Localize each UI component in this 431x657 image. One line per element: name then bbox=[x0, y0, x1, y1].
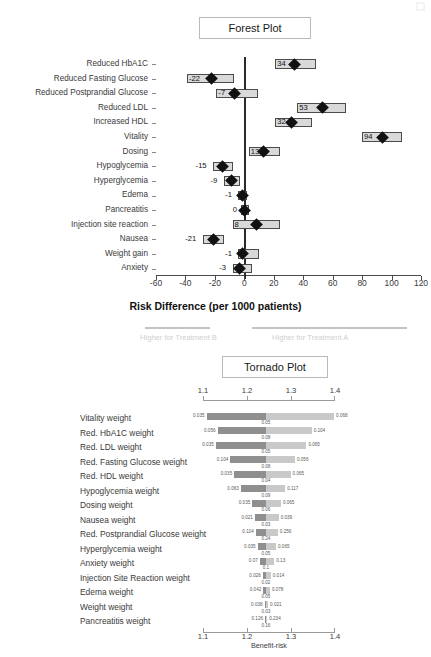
tornado-row: 0.0350.0680.05 bbox=[203, 411, 335, 426]
tornado-high-bar bbox=[266, 616, 268, 623]
forest-y-tick bbox=[152, 210, 156, 211]
tornado-row: 0.070.130.1 bbox=[203, 556, 335, 571]
forest-value-label: 13 bbox=[251, 147, 259, 157]
tornado-axis-tick-label: 1.2 bbox=[236, 632, 258, 641]
tornado-row-label: Red. LDL weight bbox=[0, 440, 200, 455]
tornado-high-value-label: 0.104 bbox=[314, 428, 330, 434]
forest-value-label: 0 bbox=[233, 205, 237, 215]
tornado-low-bar bbox=[256, 529, 266, 536]
forest-x-tick-label: 20 bbox=[262, 278, 286, 288]
tornado-axis-tick-label: 1.1 bbox=[192, 632, 214, 641]
forest-y-tick bbox=[152, 93, 156, 94]
forest-x-tick-label: -60 bbox=[144, 278, 168, 288]
forest-y-tick bbox=[152, 79, 156, 80]
forest-x-axis-title: Risk Difference (per 1000 patients) bbox=[0, 300, 431, 312]
tornado-low-value-label: 0.035 bbox=[241, 544, 256, 550]
corner-artifact-icon bbox=[416, 2, 425, 11]
tornado-high-value-label: 0.234 bbox=[269, 616, 285, 622]
tornado-high-value-label: 0.056 bbox=[297, 457, 313, 463]
tornado-high-value-label: 0.039 bbox=[281, 515, 297, 521]
forest-row: -22 bbox=[156, 72, 421, 87]
tornado-axis-line bbox=[203, 400, 335, 401]
tornado-row-label: Hyperglycemia weight bbox=[0, 542, 200, 557]
tornado-high-bar bbox=[266, 442, 306, 449]
forest-row-label: Increased HDL bbox=[0, 115, 152, 130]
chart-page: Forest Plot Reduced HbA1CReduced Fasting… bbox=[0, 0, 431, 657]
forest-row-label: Nausea bbox=[0, 232, 152, 247]
forest-value-label: -21 bbox=[185, 234, 196, 244]
forest-row-label: Dosing bbox=[0, 145, 152, 160]
forest-row: -21 bbox=[156, 232, 421, 247]
forest-value-label: 8 bbox=[235, 220, 239, 230]
forest-x-tick-labels: -60-40-20020406080100120 bbox=[156, 278, 421, 292]
forest-point-estimate-marker bbox=[238, 204, 251, 217]
forest-x-tick-label: -40 bbox=[173, 278, 197, 288]
tornado-axis-tick-label: 1.3 bbox=[280, 386, 302, 395]
tornado-row-label: Weight weight bbox=[0, 600, 200, 615]
forest-x-tick-label: 100 bbox=[380, 278, 404, 288]
forest-value-label: 94 bbox=[364, 132, 372, 142]
tornado-high-value-label: 0.13 bbox=[276, 558, 292, 564]
forest-row: 8 bbox=[156, 218, 421, 233]
tornado-row-label: Nausea weight bbox=[0, 513, 200, 528]
tornado-high-bar bbox=[266, 485, 285, 492]
tornado-low-value-label: 0.104 bbox=[213, 457, 228, 463]
forest-row-label: Hyperglycemia bbox=[0, 174, 152, 189]
forest-plot-canvas: 34-22-753329413-15-9-108-21-1-3 bbox=[156, 57, 421, 276]
tornado-high-bar bbox=[266, 500, 281, 507]
forest-y-tick bbox=[152, 225, 156, 226]
tornado-row: 0.0420.0780.05 bbox=[203, 585, 335, 600]
tornado-low-bar bbox=[252, 500, 266, 507]
tornado-low-value-label: 0.063 bbox=[224, 486, 239, 492]
tornado-row: 0.0350.0650.04 bbox=[203, 469, 335, 484]
tornado-axis-tick-label: 1.2 bbox=[236, 386, 258, 395]
tornado-high-bar bbox=[266, 601, 268, 608]
tornado-row: 0.0210.0390.03 bbox=[203, 513, 335, 528]
tornado-row-label: Injection Site Reaction weight bbox=[0, 571, 200, 586]
tornado-high-bar bbox=[266, 471, 291, 478]
tornado-low-value-label: 0.035 bbox=[199, 442, 214, 448]
tornado-low-bar bbox=[218, 427, 266, 434]
tornado-low-bar bbox=[258, 543, 266, 550]
tornado-plot-title: Tornado Plot bbox=[222, 356, 328, 378]
forest-row-label: Anxiety bbox=[0, 261, 152, 276]
tornado-axis-tick-label: 1.1 bbox=[192, 386, 214, 395]
tornado-row-label: Vitality weight bbox=[0, 411, 200, 426]
tornado-low-value-label: 0.07 bbox=[243, 558, 258, 564]
forest-row-label: Edema bbox=[0, 188, 152, 203]
tornado-row: 0.0260.0140.02 bbox=[203, 571, 335, 586]
tornado-high-bar bbox=[266, 456, 295, 463]
forest-row-label: Reduced LDL bbox=[0, 101, 152, 116]
tornado-low-bar bbox=[255, 514, 266, 521]
forest-value-label: 53 bbox=[299, 103, 307, 113]
tornado-low-value-label: 0.104 bbox=[239, 529, 254, 535]
tornado-low-bar bbox=[216, 442, 266, 449]
forest-row-label: Injection site reaction bbox=[0, 218, 152, 233]
forest-row: -15 bbox=[156, 159, 421, 174]
forest-y-tick bbox=[152, 123, 156, 124]
forest-x-tick-label: 80 bbox=[350, 278, 374, 288]
tornado-low-value-label: 0.126 bbox=[248, 616, 263, 622]
tornado-category-labels: Vitality weightRed. HbA1C weightRed. LDL… bbox=[0, 411, 200, 629]
forest-y-tick bbox=[152, 239, 156, 240]
treatment-a-legend-label: Higher for Treatment A bbox=[272, 333, 348, 342]
forest-x-tick-label: 40 bbox=[291, 278, 315, 288]
tornado-row-label: Red. HbA1C weight bbox=[0, 426, 200, 441]
forest-row: 94 bbox=[156, 130, 421, 145]
forest-row-label: Hypoglycemia bbox=[0, 159, 152, 174]
forest-row: 13 bbox=[156, 145, 421, 160]
tornado-low-bar bbox=[234, 471, 266, 478]
tornado-axis-tick bbox=[334, 396, 335, 401]
tornado-axis-tick bbox=[291, 396, 292, 401]
forest-y-tick bbox=[152, 137, 156, 138]
tornado-high-bar bbox=[266, 558, 274, 565]
forest-row: 32 bbox=[156, 115, 421, 130]
tornado-high-bar bbox=[266, 543, 276, 550]
treatment-b-line bbox=[145, 327, 210, 329]
forest-y-tick bbox=[152, 152, 156, 153]
forest-row: 34 bbox=[156, 57, 421, 72]
tornado-row-label: Red. Postprandial Glucose weight bbox=[0, 527, 200, 542]
treatment-a-line bbox=[252, 327, 407, 329]
forest-value-label: -3 bbox=[219, 263, 226, 273]
forest-y-tick bbox=[152, 64, 156, 65]
